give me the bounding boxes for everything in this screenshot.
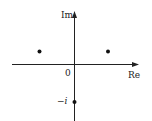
imaginary-axis-label: Im <box>61 11 73 20</box>
upper-left-point <box>38 50 42 54</box>
real-axis-arrow-icon <box>132 62 139 67</box>
complex-plane-canvas <box>0 0 152 121</box>
neg-i-label: −i <box>57 97 67 106</box>
upper-right-point <box>106 50 110 54</box>
real-axis-label: Re <box>128 71 140 80</box>
origin-label: 0 <box>65 69 71 78</box>
neg-i-point <box>73 100 77 104</box>
